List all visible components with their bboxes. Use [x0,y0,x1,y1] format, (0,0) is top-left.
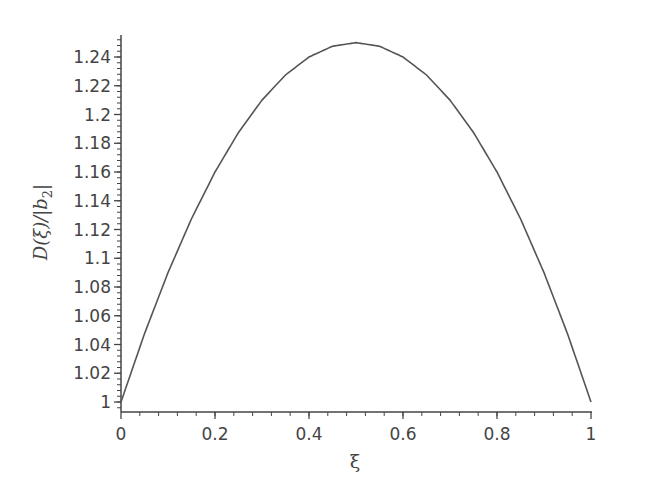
y-tick-label: 1.24 [73,47,111,67]
chart: 11.021.041.061.081.11.121.141.161.181.21… [0,0,663,494]
y-tick-label: 1.08 [73,277,111,297]
x-tick-label: 0.6 [389,424,416,444]
x-tick-label: 0.2 [201,424,228,444]
data-curve [121,43,591,402]
y-tick-label: 1.2 [84,105,111,125]
x-tick-label: 0 [116,424,127,444]
x-axis-title: ξ [350,450,360,472]
svg-text:D(ξ)/|b2|: D(ξ)/|b2| [30,184,55,261]
y-tick-label: 1.22 [73,76,111,96]
y-axis-title-main: D(ξ)/| [30,210,52,262]
y-tick-label: 1.16 [73,162,111,182]
y-tick-label: 1.14 [73,191,111,211]
y-axis-ticks: 11.021.041.061.081.11.121.141.161.181.21… [73,47,121,412]
y-axis-title-var: b [30,198,51,210]
y-tick-label: 1.12 [73,220,111,240]
x-tick-label: 0.8 [483,424,510,444]
x-tick-label: 0.4 [295,424,322,444]
y-tick-label: 1.1 [84,248,111,268]
y-axis-title-sub: 2 [40,190,55,198]
y-tick-label: 1.06 [73,306,111,326]
y-axis-title-end: | [30,184,52,190]
y-axis-title: D(ξ)/|b2| [30,184,55,261]
y-tick-label: 1 [100,392,111,412]
y-tick-label: 1.02 [73,363,111,383]
x-axis-ticks: 00.20.40.60.81 [116,412,597,444]
y-tick-label: 1.18 [73,133,111,153]
y-tick-label: 1.04 [73,335,111,355]
x-tick-label: 1 [586,424,597,444]
